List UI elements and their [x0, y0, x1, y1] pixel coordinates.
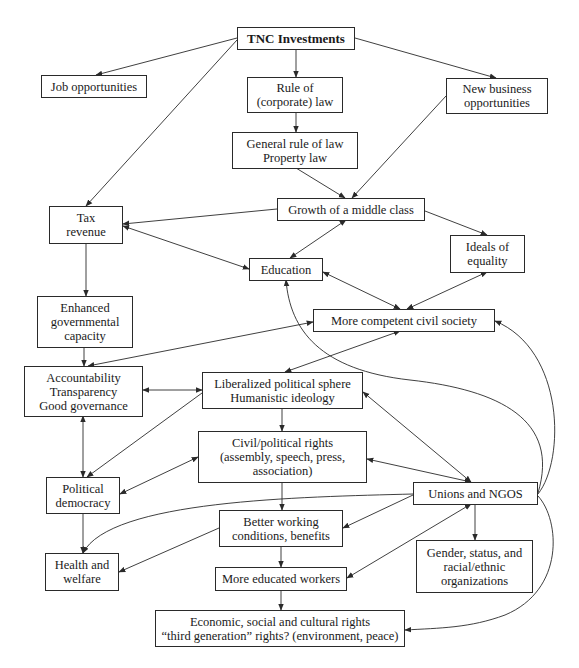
node-health-and-welfare: Health and welfare — [45, 553, 119, 591]
edge-tnc-newbiz — [355, 38, 496, 78]
node-label: democracy — [56, 496, 111, 510]
node-label: Gender, status, and — [427, 546, 522, 560]
node-more-educated-workers: More educated workers — [215, 567, 347, 591]
node-label: Political — [62, 482, 104, 496]
edge-civil-liberalized — [285, 331, 400, 372]
node-ideals-of-equality: Ideals of equality — [450, 235, 525, 273]
node-new-business-opportunities: New business opportunities — [446, 78, 548, 114]
edge-liberalized-unions — [363, 392, 471, 482]
edge-unions-civil — [495, 321, 555, 494]
node-label: Transparency — [50, 385, 118, 399]
edge-middle-tax — [123, 209, 277, 224]
edge-tnc-tax — [86, 40, 237, 206]
edge-tnc-jobs — [96, 38, 237, 75]
node-label: conditions, benefits — [232, 529, 330, 543]
node-label: capacity — [64, 329, 106, 343]
node-tnc-investments: TNC Investments — [237, 27, 355, 50]
node-accountability-transparency-governance: Accountability Transparency Good governa… — [24, 366, 143, 417]
node-label: Ideals of — [466, 240, 509, 254]
node-rule-of-corporate-law: Rule of (corporate) law — [247, 77, 343, 113]
node-label: organizations — [441, 574, 508, 588]
node-label: Tax — [77, 211, 96, 225]
node-label: Education — [261, 263, 312, 277]
node-label: TNC Investments — [247, 32, 345, 46]
node-label: More competent civil society — [331, 314, 477, 328]
node-label: Economic, social and cultural rights — [190, 615, 370, 629]
node-general-rule-of-law: General rule of law Property law — [232, 132, 358, 169]
node-label: Growth of a middle class — [288, 203, 414, 217]
edge-equality-civil — [407, 272, 487, 309]
edge-civilrights-democracy — [120, 457, 198, 494]
node-label: Rule of — [276, 81, 313, 95]
node-political-democracy: Political democracy — [46, 477, 120, 514]
node-growth-middle-class: Growth of a middle class — [277, 198, 425, 221]
node-label: Health and — [55, 558, 110, 572]
node-label: General rule of law — [247, 137, 344, 151]
node-label: association) — [253, 464, 313, 478]
edge-working-health — [119, 528, 219, 572]
node-label: Enhanced — [60, 301, 109, 315]
edge-middle-equality — [425, 211, 487, 235]
node-label: racial/ethnic — [444, 560, 506, 574]
node-label: More educated workers — [222, 572, 340, 586]
node-label: Good governance — [39, 399, 128, 413]
node-label: (assembly, speech, press, — [220, 450, 345, 464]
node-label: Humanistic ideology — [230, 391, 335, 405]
edge-education-civil — [323, 272, 400, 309]
edge-unions-working — [343, 495, 413, 528]
node-label: (corporate) law — [257, 95, 334, 109]
node-label: Better working — [243, 515, 318, 529]
node-label: opportunities — [464, 96, 530, 110]
node-label: Accountability — [46, 371, 120, 385]
node-economic-social-cultural-rights: Economic, social and cultural rights “th… — [155, 610, 405, 647]
node-label: governmental — [51, 315, 120, 329]
node-label: “third generation” rights? (environment,… — [161, 629, 398, 643]
node-job-opportunities: Job opportunities — [41, 75, 147, 98]
node-label: New business — [462, 82, 531, 96]
node-civil-political-rights: Civil/political rights (assembly, speech… — [198, 431, 367, 483]
node-label: welfare — [63, 572, 100, 586]
node-education: Education — [249, 258, 323, 281]
edge-newbiz-middle — [352, 96, 446, 198]
edge-tax-education — [123, 226, 249, 269]
node-unions-and-ngos: Unions and NGOS — [413, 482, 538, 505]
edge-middle-education — [290, 220, 346, 258]
node-gender-status-organizations: Gender, status, and racial/ethnic organi… — [416, 540, 533, 593]
node-better-working-conditions: Better working conditions, benefits — [219, 510, 343, 547]
node-label: Property law — [263, 151, 327, 165]
node-more-competent-civil-society: More competent civil society — [313, 309, 495, 332]
node-label: equality — [467, 254, 507, 268]
node-label: Liberalized political sphere — [214, 377, 351, 391]
edge-general-middle — [296, 168, 345, 198]
edge-civilrights-unions — [367, 459, 471, 482]
node-tax-revenue: Tax revenue — [49, 206, 123, 244]
node-label: revenue — [66, 225, 106, 239]
node-label: Civil/political rights — [232, 436, 333, 450]
node-enhanced-governmental-capacity: Enhanced governmental capacity — [37, 296, 133, 348]
node-liberalized-political-sphere: Liberalized political sphere Humanistic … — [202, 372, 363, 409]
node-label: Job opportunities — [51, 80, 137, 94]
node-label: Unions and NGOS — [428, 487, 522, 501]
